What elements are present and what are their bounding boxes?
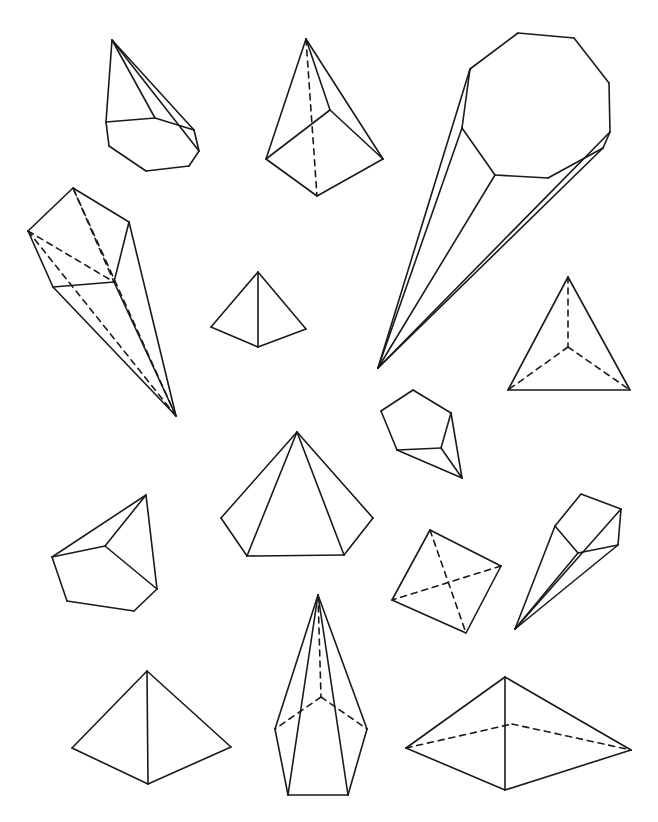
square-pyramid-bottom-left-edge-1	[147, 671, 148, 784]
octagonal-cone-large-edge-8	[609, 83, 610, 132]
polyhedra-figure-canvas	[0, 0, 658, 822]
pentagonal-pyramid-centre-large-edge-5	[247, 555, 344, 556]
